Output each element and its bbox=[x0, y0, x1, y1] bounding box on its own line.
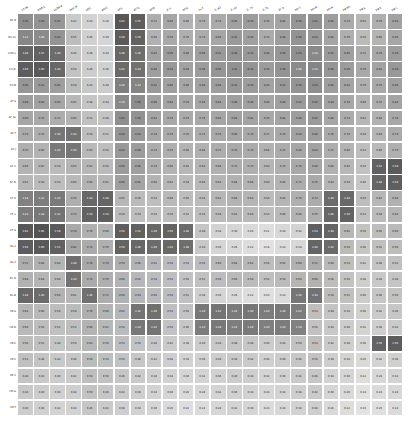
heatmap-cell-value: 0.58 bbox=[280, 278, 286, 281]
heatmap-cell: 0.72 bbox=[50, 111, 65, 126]
heatmap-cell: 1.00 bbox=[131, 111, 146, 126]
heatmap-cell-value: 0.30 bbox=[360, 342, 366, 345]
heatmap-cell: 0.68 bbox=[147, 30, 162, 45]
heatmap-cell: 0.50 bbox=[356, 224, 371, 239]
heatmap-cell: 1.24 bbox=[259, 304, 274, 319]
heatmap-cell-value: 0.88 bbox=[151, 68, 157, 71]
heatmap-cell-value: 0.56 bbox=[22, 342, 28, 345]
heatmap-cell: 0.78 bbox=[275, 127, 290, 142]
heatmap-cell-value: 0.78 bbox=[167, 117, 173, 120]
heatmap-cell: 0.96 bbox=[18, 78, 33, 93]
heatmap-cell: 0.34 bbox=[147, 385, 162, 400]
row-label: HB-G bbox=[9, 391, 16, 394]
heatmap-cell-value: 1.00 bbox=[135, 117, 141, 120]
heatmap-cell: 1.30 bbox=[291, 288, 306, 303]
heatmap-cell-value: 0.70 bbox=[344, 133, 350, 136]
heatmap-cell-value: 0.78 bbox=[344, 101, 350, 104]
heatmap-cell: 1.08 bbox=[291, 62, 306, 77]
heatmap-cell-value: 0.70 bbox=[183, 133, 189, 136]
heatmap-cell-value: 0.24 bbox=[280, 294, 286, 297]
heatmap-cell: 0.74 bbox=[340, 14, 355, 29]
heatmap-cell: 0.84 bbox=[227, 111, 242, 126]
heatmap-cell: 1.44 bbox=[18, 288, 33, 303]
heatmap-cell: 1.34 bbox=[131, 62, 146, 77]
heatmap-cell-value: 0.66 bbox=[71, 117, 77, 120]
column-label: JF-X bbox=[166, 8, 171, 13]
heatmap-cell: 0.42 bbox=[147, 353, 162, 368]
heatmap-cell: 0.28 bbox=[275, 224, 290, 239]
heatmap-cell: 0.48 bbox=[98, 111, 113, 126]
heatmap-cell: 0.80 bbox=[179, 78, 194, 93]
heatmap-cell-value: 0.80 bbox=[215, 36, 221, 39]
heatmap-cell: 1.26 bbox=[50, 143, 65, 158]
heatmap-cell-value: 0.60 bbox=[38, 310, 44, 313]
heatmap-cell-value: 1.32 bbox=[135, 310, 141, 313]
heatmap-cell: 1.48 bbox=[18, 46, 33, 61]
heatmap-cell: 0.28 bbox=[259, 385, 274, 400]
heatmap-cell: 0.54 bbox=[163, 272, 178, 287]
heatmap-cell-value: 0.36 bbox=[264, 358, 270, 361]
heatmap-cell-value: 0.60 bbox=[151, 294, 157, 297]
heatmap-cell-value: 0.44 bbox=[22, 391, 28, 394]
heatmap-cell-value: 0.84 bbox=[215, 101, 221, 104]
heatmap-cell-value: 0.66 bbox=[22, 165, 28, 168]
heatmap-cell: 0.52 bbox=[388, 256, 403, 271]
heatmap-cell: 0.90 bbox=[340, 62, 355, 77]
heatmap-cell-value: 0.62 bbox=[103, 326, 109, 329]
heatmap-cell: 0.42 bbox=[131, 369, 146, 384]
heatmap-cell-value: 0.62 bbox=[183, 165, 189, 168]
heatmap-cell: 1.00 bbox=[275, 62, 290, 77]
heatmap-cell-value: 0.24 bbox=[376, 391, 382, 394]
heatmap-cell: 0.74 bbox=[275, 143, 290, 158]
heatmap-cell-value: 1.28 bbox=[215, 326, 221, 329]
heatmap-cell-value: 0.68 bbox=[119, 294, 125, 297]
heatmap-cell: 1.10 bbox=[308, 46, 323, 61]
heatmap-cell: 0.86 bbox=[227, 14, 242, 29]
heatmap-cell: 0.90 bbox=[243, 14, 258, 29]
heatmap-cell: 0.30 bbox=[163, 385, 178, 400]
heatmap-cell-value: 0.32 bbox=[360, 326, 366, 329]
heatmap-cell: 0.74 bbox=[259, 30, 274, 45]
heatmap-cell-value: 0.34 bbox=[328, 375, 334, 378]
heatmap-cell: 0.86 bbox=[340, 46, 355, 61]
heatmap-cell: 1.12 bbox=[18, 30, 33, 45]
heatmap-cell: 0.72 bbox=[98, 288, 113, 303]
heatmap-cell-value: 0.32 bbox=[199, 375, 205, 378]
heatmap-cell-value: 1.02 bbox=[312, 20, 318, 23]
heatmap-cell-value: 0.86 bbox=[280, 101, 286, 104]
heatmap-cell: 1.24 bbox=[275, 320, 290, 335]
column-label: HD-N bbox=[327, 7, 334, 13]
heatmap-cell-value: 0.58 bbox=[135, 197, 141, 200]
heatmap-cell-value: 0.24 bbox=[280, 246, 286, 249]
heatmap-cell: 0.76 bbox=[259, 111, 274, 126]
heatmap-cell-value: 0.60 bbox=[199, 181, 205, 184]
heatmap-cell: 0.62 bbox=[211, 191, 226, 206]
heatmap-cell: 1.56 bbox=[18, 62, 33, 77]
heatmap-cell-value: 0.42 bbox=[392, 326, 398, 329]
heatmap-cell: 0.38 bbox=[179, 336, 194, 351]
heatmap-cell: 1.28 bbox=[275, 304, 290, 319]
heatmap-cell-value: 1.44 bbox=[22, 294, 28, 297]
heatmap-cell: 0.80 bbox=[163, 14, 178, 29]
heatmap-cell-value: 0.48 bbox=[103, 117, 109, 120]
heatmap-cell: 0.32 bbox=[195, 369, 210, 384]
heatmap-cell-value: 0.28 bbox=[264, 391, 270, 394]
column-label: HB-C bbox=[391, 8, 398, 13]
heatmap-cell-value: 0.56 bbox=[167, 213, 173, 216]
heatmap-cell-value: 0.68 bbox=[392, 197, 398, 200]
heatmap-cell-value: 1.08 bbox=[296, 68, 302, 71]
heatmap-cell: 0.80 bbox=[195, 95, 210, 110]
heatmap-cell-value: 0.42 bbox=[360, 262, 366, 265]
column-axis-labels: FT-PBRQN-LLSTM-BPHP-JRSDJCBSVCAFSAFCLAFM… bbox=[18, 0, 404, 14]
heatmap-cell-value: 0.62 bbox=[360, 20, 366, 23]
heatmap-cell-value: 0.82 bbox=[135, 181, 141, 184]
heatmap-cell: 0.34 bbox=[179, 353, 194, 368]
heatmap-cell-value: 0.42 bbox=[376, 310, 382, 313]
heatmap-cell: 0.80 bbox=[291, 143, 306, 158]
heatmap-cell: 0.68 bbox=[227, 175, 242, 190]
heatmap-cell: 0.96 bbox=[275, 46, 290, 61]
heatmap-cell-value: 0.74 bbox=[280, 149, 286, 152]
heatmap-cell: 0.34 bbox=[291, 401, 306, 416]
heatmap-cell: 0.42 bbox=[308, 385, 323, 400]
heatmap-cell: 1.50 bbox=[115, 240, 130, 255]
